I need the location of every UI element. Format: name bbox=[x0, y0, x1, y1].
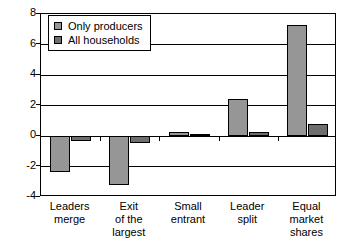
legend-label-all-households: All households bbox=[68, 35, 140, 46]
x-axis-label-line: Equal bbox=[277, 200, 336, 213]
x-axis-label: Smallentrant bbox=[158, 200, 217, 226]
bar bbox=[287, 25, 307, 136]
x-axis-label-line: largest bbox=[99, 226, 158, 239]
bar bbox=[71, 136, 91, 141]
x-axis-label-line: Exit bbox=[99, 200, 158, 213]
bar bbox=[308, 124, 328, 136]
bar bbox=[130, 136, 150, 143]
y-tick-label: 0 bbox=[10, 129, 36, 140]
y-tick-label: 6 bbox=[10, 38, 36, 49]
y-tick-label: 2 bbox=[10, 99, 36, 110]
bar bbox=[190, 134, 210, 136]
x-tick-mark bbox=[278, 136, 279, 141]
x-tick-mark bbox=[219, 136, 220, 141]
y-tick-label: 8 bbox=[10, 7, 36, 18]
bar-chart: 86420-2-4 LeadersmergeExitof thelargestS… bbox=[0, 0, 348, 246]
bar bbox=[109, 136, 129, 185]
x-axis-label-line: of the bbox=[99, 213, 158, 226]
x-axis-label-line: market bbox=[277, 213, 336, 226]
legend-swatch-only-producers bbox=[54, 22, 62, 30]
bar bbox=[50, 136, 70, 172]
bar bbox=[249, 132, 269, 136]
legend-label-only-producers: Only producers bbox=[68, 21, 143, 32]
x-axis-label-line: Leader bbox=[218, 200, 277, 213]
x-axis-label: Exitof thelargest bbox=[99, 200, 158, 239]
x-axis-label-line: Small bbox=[158, 200, 217, 213]
gridline bbox=[41, 166, 335, 167]
y-tick-label: -2 bbox=[10, 160, 36, 171]
y-tick-label: 4 bbox=[10, 68, 36, 79]
x-axis-label: Equalmarketshares bbox=[277, 200, 336, 239]
x-axis-label: Leadersmerge bbox=[40, 200, 99, 226]
x-axis-label-line: Leaders bbox=[40, 200, 99, 213]
x-tick-mark bbox=[100, 136, 101, 141]
legend-item-all-households: All households bbox=[54, 33, 143, 47]
x-axis-label-line: shares bbox=[277, 226, 336, 239]
x-axis-label-line: entrant bbox=[158, 213, 217, 226]
legend-swatch-all-households bbox=[54, 36, 62, 44]
chart-legend: Only producers All households bbox=[48, 15, 151, 51]
bar bbox=[228, 99, 248, 136]
x-axis-label-line: split bbox=[218, 213, 277, 226]
x-tick-mark bbox=[159, 136, 160, 141]
x-axis-label: Leadersplit bbox=[218, 200, 277, 226]
bar bbox=[169, 132, 189, 136]
legend-item-only-producers: Only producers bbox=[54, 19, 143, 33]
y-tick-label: -4 bbox=[10, 190, 36, 201]
x-axis-label-line: merge bbox=[40, 213, 99, 226]
